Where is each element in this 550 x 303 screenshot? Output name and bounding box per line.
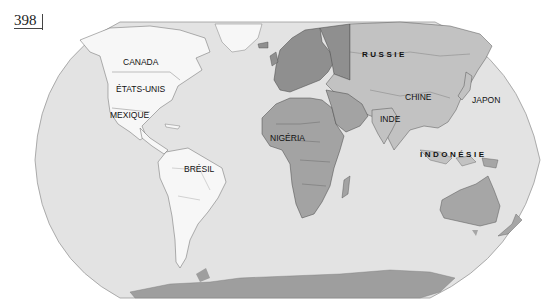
label-russia: RUSSIE bbox=[362, 50, 407, 59]
label-usa: ÉTATS-UNIS bbox=[116, 84, 166, 94]
label-indonesia: INDONÉSIE bbox=[420, 150, 487, 159]
label-mexico: MEXIQUE bbox=[110, 110, 150, 120]
label-canada: CANADA bbox=[123, 57, 159, 67]
label-nigeria: NIGÉRIA bbox=[270, 133, 305, 143]
label-japan: JAPON bbox=[472, 95, 500, 105]
label-brazil: BRÉSIL bbox=[184, 164, 215, 174]
world-map: CANADA ÉTATS-UNIS MEXIQUE BRÉSIL NIGÉRIA… bbox=[0, 0, 550, 303]
label-india: INDE bbox=[380, 114, 401, 124]
label-china: CHINE bbox=[405, 92, 432, 102]
